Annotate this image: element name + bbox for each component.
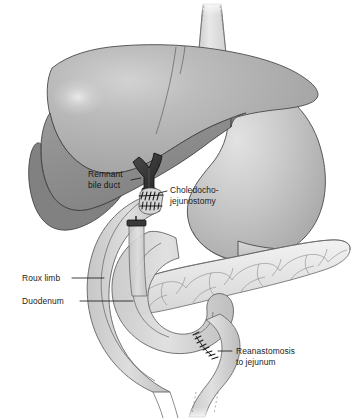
label-reanastomosis-line2: to jejunum <box>236 357 276 367</box>
label-choledochojejunostomy-line2: jejunostomy <box>169 196 217 206</box>
choledochojejunostomy <box>139 188 163 214</box>
anatomy-illustration: Remnant bile duct Choledocho- jejunostom… <box>0 0 354 420</box>
roux-limb-ascending <box>129 225 147 296</box>
roux-limb-ascending-body <box>129 225 147 296</box>
label-duodenum: Duodenum <box>22 296 64 306</box>
label-remnant-bile-duct-line1: Remnant <box>88 169 123 179</box>
anatomy-figure: Remnant bile duct Choledocho- jejunostom… <box>0 0 354 420</box>
label-choledochojejunostomy-line1: Choledocho- <box>170 185 219 195</box>
label-reanastomosis-line1: Reanastomosis <box>236 346 295 356</box>
liver-highlight <box>52 78 104 116</box>
label-remnant-bile-duct-line2: bile duct <box>88 180 121 190</box>
esophagus-fade-mask <box>193 0 233 34</box>
jejunum-fade-mask <box>183 386 247 420</box>
label-roux-limb: Roux limb <box>22 273 60 283</box>
